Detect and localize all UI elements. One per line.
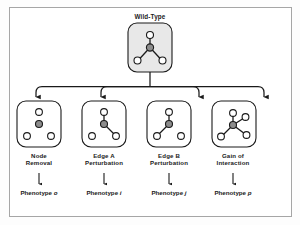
gain-node-hub [230, 122, 237, 129]
figure-canvas: Wild-Type Node Removal Edge A Perturbati… [0, 0, 300, 225]
tree-connector [36, 72, 264, 97]
edge-a-node-bottom-right [113, 133, 120, 140]
phenotype-arrows [39, 173, 233, 184]
phenotype-prefix: Phenotype [20, 189, 53, 196]
edge-b-label: Edge B Perturbation [134, 152, 204, 167]
wild-type-node-bottom-left [134, 57, 141, 64]
node-removal-node-bottom-left [24, 133, 31, 140]
node-removal-node-hub [36, 121, 43, 128]
phenotype-edge-a: Phenotype i [69, 189, 139, 196]
gain-node-bottom-right [243, 132, 250, 139]
node-removal-label: Node Removal [4, 152, 74, 167]
node-removal-node-bottom-right [48, 133, 55, 140]
phenotype-edge-b: Phenotype j [134, 189, 204, 196]
gain-of-interaction-box [212, 101, 256, 147]
wild-type-box [128, 23, 172, 72]
phenotype-node-removal: Phenotype o [4, 189, 74, 196]
phenotype-symbol: j [185, 189, 187, 196]
wild-type-node-hub [146, 44, 153, 51]
edge-b-node-bottom-right [178, 133, 185, 140]
wild-type-node-top [147, 32, 154, 39]
edge-a-node-bottom-left [89, 133, 96, 140]
edge-b-node-bottom-left [154, 133, 161, 140]
edge-a-node-top [101, 109, 108, 116]
edge-b-box [147, 101, 191, 147]
phenotype-prefix: Phenotype [151, 189, 184, 196]
connector-to-edge-a [101, 87, 150, 98]
connector-to-node-removal [36, 87, 150, 98]
phenotype-prefix: Phenotype [86, 189, 119, 196]
wild-type-node-bottom-right [159, 57, 166, 64]
phenotype-symbol: o [54, 189, 58, 196]
edge-b-node-top [166, 109, 173, 116]
edge-a-node-hub [101, 121, 108, 128]
phenotype-gain: Phenotype p [198, 189, 268, 196]
node-removal-node-top [36, 109, 43, 116]
phenotype-symbol: i [120, 189, 122, 196]
gain-node-top [230, 110, 237, 117]
phenotype-symbol: p [248, 189, 252, 196]
edge-b-node-hub [166, 121, 173, 128]
node-removal-box [17, 101, 61, 147]
gain-node-right [242, 114, 249, 121]
edge-a-box [82, 101, 126, 147]
connector-to-gain [150, 87, 264, 98]
connector-to-edge-b [150, 87, 199, 98]
phenotype-prefix: Phenotype [214, 189, 247, 196]
gain-node-bottom-left [218, 133, 225, 140]
edge-a-label: Edge A Perturbation [69, 152, 139, 167]
wild-type-label: Wild-Type [110, 13, 190, 20]
gain-of-interaction-label: Gain of Interaction [198, 152, 268, 167]
